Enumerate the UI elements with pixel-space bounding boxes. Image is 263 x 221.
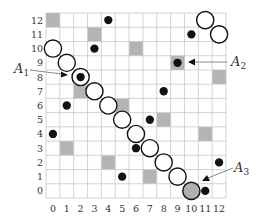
black-dot xyxy=(146,116,154,124)
y-tick-label: 3 xyxy=(37,143,43,154)
x-tick-label: 6 xyxy=(133,203,139,214)
y-axis-ticks: 0123456789101112 xyxy=(31,15,43,197)
open-circle xyxy=(127,125,144,142)
y-tick-label: 11 xyxy=(31,29,43,40)
y-tick-label: 9 xyxy=(37,57,43,68)
gray-cell xyxy=(157,113,171,127)
a2-arrowhead xyxy=(188,59,195,66)
black-dot xyxy=(201,187,209,195)
y-tick-label: 1 xyxy=(37,171,43,182)
x-tick-label: 11 xyxy=(199,203,211,214)
black-dot xyxy=(76,73,84,81)
x-axis-ticks: 0123456789101112 xyxy=(50,203,225,214)
open-circle xyxy=(114,111,131,128)
open-circle xyxy=(210,26,227,43)
y-tick-label: 10 xyxy=(31,43,43,54)
open-circle xyxy=(58,54,75,71)
black-dot xyxy=(132,144,140,152)
a1-arrowhead xyxy=(61,72,68,78)
x-tick-label: 2 xyxy=(78,203,84,214)
black-dot xyxy=(160,87,168,95)
black-dot xyxy=(49,130,57,138)
black-dot xyxy=(63,101,71,109)
open-circle xyxy=(141,140,158,157)
x-tick-label: 9 xyxy=(175,203,181,214)
circles-layer xyxy=(44,12,227,200)
y-tick-label: 5 xyxy=(37,114,43,125)
gray-cell xyxy=(143,170,157,184)
gray-cell xyxy=(88,27,102,41)
annotation-a2: A2 xyxy=(188,54,246,71)
black-dot xyxy=(187,30,195,38)
gray-cell xyxy=(101,155,115,169)
black-dot xyxy=(90,44,98,52)
gray-cell xyxy=(212,70,226,84)
open-circle xyxy=(44,40,61,57)
x-tick-label: 4 xyxy=(105,203,111,214)
x-tick-label: 1 xyxy=(64,203,70,214)
a3-label: A3 xyxy=(233,160,249,177)
x-tick-label: 0 xyxy=(50,203,56,214)
x-tick-label: 7 xyxy=(147,203,153,214)
x-tick-label: 8 xyxy=(161,203,167,214)
y-tick-label: 7 xyxy=(37,86,43,97)
y-tick-label: 4 xyxy=(37,128,43,139)
gray-cell xyxy=(198,127,212,141)
open-circle xyxy=(100,97,117,114)
gray-cell xyxy=(46,13,60,27)
grid-lines xyxy=(46,13,226,198)
open-circle xyxy=(86,83,103,100)
x-tick-label: 5 xyxy=(119,203,125,214)
y-tick-label: 2 xyxy=(37,157,43,168)
x-tick-label: 3 xyxy=(91,203,97,214)
y-tick-label: 8 xyxy=(37,72,43,83)
black-dot xyxy=(118,173,126,181)
gray-cell xyxy=(129,41,143,55)
black-dot xyxy=(104,16,112,24)
highlighted-circle xyxy=(183,182,200,199)
x-tick-label: 10 xyxy=(185,203,197,214)
open-circle xyxy=(155,154,172,171)
black-dot xyxy=(215,158,223,166)
black-dot xyxy=(173,59,181,67)
x-tick-label: 12 xyxy=(213,203,225,214)
open-circle xyxy=(197,12,214,29)
open-circle xyxy=(169,168,186,185)
a1-label: A1 xyxy=(13,61,29,78)
y-tick-label: 12 xyxy=(31,15,43,26)
grid-diagram: 0123456789101112 0123456789101112 A1 A2 … xyxy=(0,0,263,221)
y-tick-label: 6 xyxy=(37,100,43,111)
gray-cell xyxy=(60,141,74,155)
y-tick-label: 0 xyxy=(37,185,43,196)
a2-label: A2 xyxy=(230,54,246,71)
